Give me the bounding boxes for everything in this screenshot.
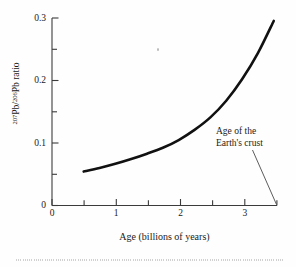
annotation-leader-line [253, 150, 277, 205]
y-axis-title-numerator-base: Pb [11, 105, 21, 115]
annotation-line-2: Earth's crust [216, 138, 292, 150]
x-tick-label-3: 3 [233, 208, 257, 218]
y-tick-label-0.3: 0.3 [8, 13, 46, 23]
y-axis-title: 207Pb/206Pb ratio [11, 50, 22, 136]
figure-container: 0.3 0.2 0.1 0 0 1 2 3 207Pb/206Pb ratio … [0, 0, 296, 267]
y-tick-label-0.1: 0.1 [8, 138, 46, 148]
annotation-line-1: Age of the [216, 126, 292, 138]
x-tick-label-1: 1 [104, 208, 128, 218]
y-axis-title-denominator-base: Pb [11, 82, 21, 92]
y-axis-title-suffix: ratio [11, 62, 21, 82]
y-minor-ticks [52, 49, 57, 174]
annotation-age-of-earths-crust: Age of the Earth's crust [216, 126, 292, 149]
x-axis-title: Age (billions of years) [52, 231, 277, 242]
scan-speck [157, 48, 159, 51]
x-tick-label-2: 2 [169, 208, 193, 218]
y-axis-title-numerator-superscript: 207 [11, 115, 18, 125]
y-axis-title-denominator-superscript: 206 [11, 92, 18, 102]
scan-dotted-line-artifact [16, 259, 284, 261]
x-tick-label-0: 0 [40, 208, 64, 218]
